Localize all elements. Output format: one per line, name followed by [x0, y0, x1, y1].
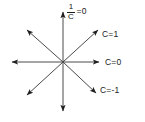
ray-upper-left — [27, 30, 63, 62]
direction-field-figure: 1 C =0 C=1 C=0 C=-1 — [0, 0, 145, 122]
ray-lower-left — [27, 62, 63, 95]
label-c-equals-negative-one: C=-1 — [100, 86, 119, 95]
fraction-numerator: 1 — [68, 3, 75, 11]
ray-upper-right — [63, 30, 98, 62]
fraction-one-over-c: 1 C — [67, 3, 75, 21]
ray-lower-right — [63, 62, 96, 93]
fraction-denominator: C — [67, 13, 75, 21]
label-c-equals-one: C=1 — [102, 30, 118, 39]
label-c-equals-zero: C=0 — [105, 58, 121, 67]
label-equals-zero-tail: =0 — [76, 7, 86, 17]
label-inverse-c-equals-zero: 1 C =0 — [67, 3, 87, 21]
